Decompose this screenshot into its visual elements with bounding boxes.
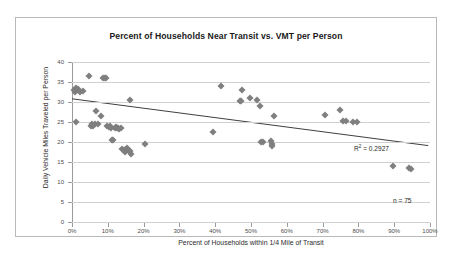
x-axis-tick-label: 70% <box>306 228 340 234</box>
gridline-horizontal <box>72 82 430 83</box>
x-axis-tick-label: 40% <box>198 228 232 234</box>
gridline-horizontal <box>72 122 430 123</box>
x-axis-tick <box>251 223 252 227</box>
x-axis-tick-label: 100% <box>413 228 447 234</box>
y-axis-tick-label: 30 <box>36 99 64 105</box>
y-axis-tick-label: 10 <box>36 179 64 185</box>
sample-size-annotation: n = 75 <box>393 197 412 204</box>
r-squared-annotation: R2 = 0.2927 <box>354 144 389 152</box>
gridline-horizontal <box>72 62 430 63</box>
x-axis-tick <box>215 223 216 227</box>
y-axis-tick <box>68 102 72 103</box>
x-axis-tick-label: 80% <box>341 228 375 234</box>
x-axis-tick <box>394 223 395 227</box>
y-axis-tick-label: 25 <box>36 119 64 125</box>
y-axis-tick <box>68 82 72 83</box>
y-axis-tick-label: 35 <box>36 79 64 85</box>
x-axis-title: Percent of Households within 1/4 Mile of… <box>72 239 430 246</box>
x-axis-tick <box>430 223 431 227</box>
y-axis-tick-label: 0 <box>36 219 64 225</box>
screenshot-root: Percent of Households Near Transit vs. V… <box>0 0 452 254</box>
y-axis-tick <box>68 162 72 163</box>
x-axis-tick-label: 50% <box>234 228 268 234</box>
gridline-horizontal <box>72 102 430 103</box>
x-axis-tick <box>72 223 73 227</box>
y-axis-tick <box>68 202 72 203</box>
x-axis-tick <box>287 223 288 227</box>
x-axis-tick-label: 90% <box>377 228 411 234</box>
y-axis-tick <box>68 122 72 123</box>
y-axis-tick <box>68 142 72 143</box>
x-axis-tick-label: 20% <box>127 228 161 234</box>
chart-figure-frame: Percent of Households Near Transit vs. V… <box>15 17 437 237</box>
y-axis-tick <box>68 62 72 63</box>
x-axis-tick <box>144 223 145 227</box>
x-axis-tick <box>323 223 324 227</box>
gridline-horizontal <box>72 142 430 143</box>
x-axis-tick <box>179 223 180 227</box>
x-axis-tick <box>108 223 109 227</box>
y-axis-tick-label: 5 <box>36 199 64 205</box>
gridline-horizontal <box>72 162 430 163</box>
x-axis-tick <box>358 223 359 227</box>
gridline-horizontal <box>72 202 430 203</box>
y-axis-tick <box>68 182 72 183</box>
x-axis-tick-label: 10% <box>91 228 125 234</box>
y-axis-tick-label: 15 <box>36 159 64 165</box>
x-axis-tick-label: 30% <box>162 228 196 234</box>
y-axis-tick-label: 40 <box>36 59 64 65</box>
r-squared-text: R2 = 0.2927 <box>354 145 389 152</box>
chart-title: Percent of Households Near Transit vs. V… <box>16 31 436 41</box>
plot-area <box>72 62 430 222</box>
x-axis-tick-label: 60% <box>270 228 304 234</box>
x-axis-tick-label: 0% <box>55 228 89 234</box>
gridline-horizontal <box>72 182 430 183</box>
y-axis-tick-label: 20 <box>36 139 64 145</box>
